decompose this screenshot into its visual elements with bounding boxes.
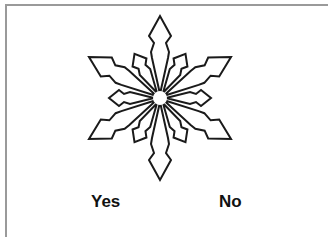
yes-option[interactable]: Yes [91,192,120,212]
snowflake-icon [0,0,328,237]
no-option[interactable]: No [219,192,242,212]
